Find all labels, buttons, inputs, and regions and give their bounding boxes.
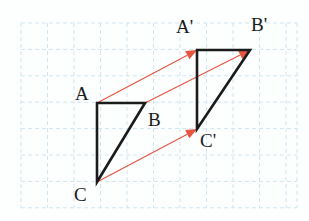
vertex-label-B-prime: B': [251, 15, 267, 34]
vertex-label-C-prime: C': [200, 131, 216, 150]
vertex-label-A-prime: A': [176, 17, 193, 36]
figure-canvas: ABCA'B'C': [0, 0, 309, 221]
vertex-label-B: B: [148, 110, 161, 129]
vertex-label-C: C: [74, 185, 87, 204]
vertex-label-A: A: [75, 84, 89, 103]
